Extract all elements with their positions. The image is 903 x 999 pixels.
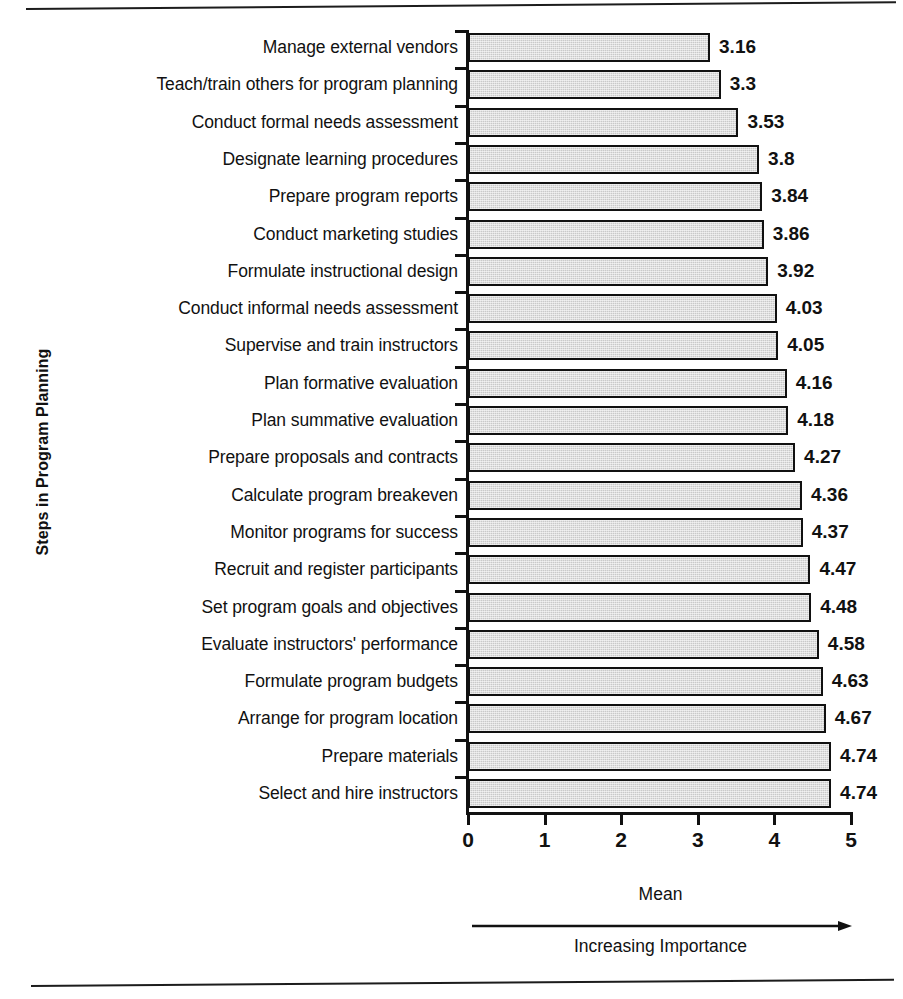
bar-value-label: 3.16: [719, 32, 756, 62]
bar: [468, 593, 811, 622]
x-axis-tick-label: 0: [448, 828, 488, 852]
bar-row: Prepare program reports3.84: [0, 178, 903, 215]
bar-value-label: 4.27: [804, 442, 841, 472]
y-axis-tick: [455, 739, 468, 742]
x-axis-tick: [850, 812, 853, 825]
category-label: Conduct formal needs assessment: [192, 104, 458, 141]
x-axis-tick-label: 1: [525, 828, 565, 852]
y-axis-tick: [455, 701, 468, 704]
y-axis-tick: [455, 440, 468, 443]
plot-area: Manage external vendors3.16Teach/train o…: [0, 0, 903, 830]
x-axis-tick: [467, 812, 470, 825]
category-label: Set program goals and objectives: [201, 589, 458, 626]
y-axis-tick: [455, 254, 468, 257]
bar: [468, 406, 788, 435]
bar-value-label: 3.86: [773, 219, 810, 249]
x-axis-tick-label: 5: [831, 828, 871, 852]
category-label: Manage external vendors: [263, 29, 458, 66]
x-axis-line: [466, 812, 853, 815]
x-axis-tick: [697, 812, 700, 825]
x-axis-tick-label: 4: [754, 828, 794, 852]
bar-value-label: 4.16: [796, 368, 833, 398]
category-label: Conduct informal needs assessment: [178, 290, 458, 327]
bar: [468, 182, 762, 211]
x-axis-tick: [544, 812, 547, 825]
bar: [468, 481, 802, 510]
category-label: Prepare program reports: [269, 178, 458, 215]
bar-row: Prepare materials4.74: [0, 738, 903, 775]
bar-row: Recruit and register participants4.47: [0, 551, 903, 588]
bar: [468, 145, 759, 174]
category-label: Prepare materials: [322, 738, 458, 775]
x-axis-tick: [620, 812, 623, 825]
bar-chart-figure: Steps in Program Planning Manage externa…: [0, 0, 903, 999]
bar-value-label: 4.18: [797, 405, 834, 435]
y-axis-tick: [455, 328, 468, 331]
y-axis-tick: [455, 552, 468, 555]
y-axis-tick: [455, 142, 468, 145]
y-axis-tick: [455, 217, 468, 220]
bar: [468, 667, 823, 696]
bar-row: Plan summative evaluation4.18: [0, 402, 903, 439]
bar-value-label: 3.53: [747, 107, 784, 137]
bar-value-label: 3.84: [771, 181, 808, 211]
bar-value-label: 3.92: [777, 256, 814, 286]
y-axis-tick: [455, 403, 468, 406]
category-label: Designate learning procedures: [223, 141, 458, 178]
bar: [468, 555, 810, 584]
y-axis-tick: [455, 179, 468, 182]
category-label: Formulate instructional design: [228, 253, 458, 290]
bar-value-label: 4.05: [787, 330, 824, 360]
bar-row: Manage external vendors3.16: [0, 29, 903, 66]
bar-value-label: 4.47: [819, 554, 856, 584]
y-axis-tick: [455, 776, 468, 779]
bar: [468, 70, 721, 99]
category-label: Supervise and train instructors: [225, 327, 458, 364]
bar-row: Calculate program breakeven4.36: [0, 477, 903, 514]
category-label: Conduct marketing studies: [253, 216, 458, 253]
bar: [468, 704, 826, 733]
bar-row: Teach/train others for program planning3…: [0, 66, 903, 103]
category-label: Arrange for program location: [238, 700, 458, 737]
category-label: Monitor programs for success: [230, 514, 458, 551]
category-label: Evaluate instructors' performance: [201, 626, 458, 663]
y-axis-tick: [455, 105, 468, 108]
y-axis-tick: [455, 590, 468, 593]
y-axis-line: [466, 30, 469, 814]
bar-value-label: 4.03: [786, 293, 823, 323]
y-axis-tick: [455, 515, 468, 518]
bar-value-label: 4.74: [840, 741, 877, 771]
bar: [468, 294, 777, 323]
bar: [468, 518, 803, 547]
y-axis-tick: [455, 478, 468, 481]
bar-value-label: 4.48: [820, 592, 857, 622]
bar-row: Conduct marketing studies3.86: [0, 216, 903, 253]
bar: [468, 369, 787, 398]
bar: [468, 779, 831, 808]
bar-row: Arrange for program location4.67: [0, 700, 903, 737]
bar: [468, 257, 768, 286]
category-label: Recruit and register participants: [214, 551, 458, 588]
y-axis-tick: [455, 627, 468, 630]
bar: [468, 220, 764, 249]
bar-row: Supervise and train instructors4.05: [0, 327, 903, 364]
category-label: Teach/train others for program planning: [156, 66, 458, 103]
bar: [468, 443, 795, 472]
bar-value-label: 3.8: [768, 144, 794, 174]
bar: [468, 33, 710, 62]
bar-value-label: 4.63: [832, 666, 869, 696]
category-label: Calculate program breakeven: [231, 477, 458, 514]
category-label: Plan summative evaluation: [251, 402, 458, 439]
category-label: Plan formative evaluation: [264, 365, 458, 402]
bar-row: Conduct informal needs assessment4.03: [0, 290, 903, 327]
bar-value-label: 4.58: [828, 629, 865, 659]
category-label: Formulate program budgets: [245, 663, 458, 700]
y-axis-tick: [455, 291, 468, 294]
y-axis-tick: [455, 30, 468, 33]
category-label: Select and hire instructors: [258, 775, 458, 812]
bar-row: Monitor programs for success4.37: [0, 514, 903, 551]
bar-row: Plan formative evaluation4.16: [0, 365, 903, 402]
bar-row: Formulate program budgets4.63: [0, 663, 903, 700]
bar: [468, 630, 819, 659]
bar-row: Set program goals and objectives4.48: [0, 589, 903, 626]
